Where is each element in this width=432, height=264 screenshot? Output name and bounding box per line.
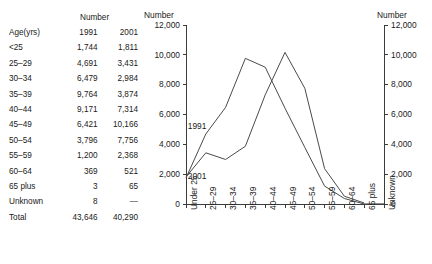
- table-row: Total43,64640,290: [8, 210, 140, 225]
- plot-area: [140, 0, 432, 264]
- row-age-label: 40–44: [8, 102, 59, 117]
- x-tick-label: 45–49: [289, 187, 297, 210]
- table-header-row: Age(yrs) 1991 2001: [8, 25, 140, 40]
- table-span-header-number: Number: [59, 10, 140, 25]
- series-line-2001: [186, 52, 364, 203]
- series-annotation-2001: 2001: [188, 172, 207, 180]
- left-y-tick-label: 12,000: [142, 21, 180, 29]
- x-tick-label: 40–44: [269, 187, 277, 210]
- row-value-2001: —: [100, 195, 140, 210]
- row-value-1991: 8: [59, 195, 99, 210]
- table-body: <251,7441,81125–294,6913,43130–346,4792,…: [8, 41, 140, 226]
- column-header-1991: 1991: [59, 25, 99, 40]
- row-value-2001: 7,314: [100, 102, 140, 117]
- table-span-header-row: Number: [8, 10, 140, 25]
- table-row: 45–496,42110,166: [8, 118, 140, 133]
- row-value-2001: 521: [100, 164, 140, 179]
- series-line-1991: [186, 58, 384, 204]
- row-value-2001: 2,368: [100, 149, 140, 164]
- row-age-label: Unknown: [8, 195, 59, 210]
- x-tick-label: 60–64: [348, 187, 356, 210]
- left-y-tick-label: 2,000: [142, 170, 180, 178]
- x-tick-label: 50–54: [308, 187, 316, 210]
- series-annotation-1991: 1991: [188, 122, 207, 130]
- row-value-2001: 2,984: [100, 72, 140, 87]
- row-age-label: 45–49: [8, 118, 59, 133]
- row-value-2001: 3,431: [100, 56, 140, 71]
- right-y-tick-label: 6,000: [391, 110, 429, 118]
- row-age-label: 65 plus: [8, 179, 59, 194]
- row-value-1991: 43,646: [59, 210, 99, 225]
- x-tick-label: 55–59: [328, 187, 336, 210]
- left-y-tick-label: 8,000: [142, 80, 180, 88]
- row-value-2001: 10,166: [100, 118, 140, 133]
- row-value-1991: 1,744: [59, 41, 99, 56]
- row-value-1991: 4,691: [59, 56, 99, 71]
- left-y-tick-label: 6,000: [142, 110, 180, 118]
- column-header-2001: 2001: [100, 25, 140, 40]
- x-tick-label: 30–34: [229, 187, 237, 210]
- row-age-label: 25–29: [8, 56, 59, 71]
- table-row: 25–294,6913,431: [8, 56, 140, 71]
- row-age-label: Total: [8, 210, 59, 225]
- left-y-tick-label: 0: [142, 200, 180, 208]
- table-row: 65 plus365: [8, 179, 140, 194]
- age-distribution-table: Number Age(yrs) 1991 2001 <251,7441,8112…: [8, 10, 140, 225]
- right-y-tick-label: 8,000: [391, 80, 429, 88]
- table-row: 60–64369521: [8, 164, 140, 179]
- x-tick-label: Unknown: [388, 175, 396, 210]
- row-age-label: 35–39: [8, 87, 59, 102]
- row-value-1991: 6,421: [59, 118, 99, 133]
- row-value-2001: 3,874: [100, 87, 140, 102]
- row-age-label: 60–64: [8, 164, 59, 179]
- x-tick-label: 65 plus: [368, 183, 376, 210]
- row-value-1991: 9,764: [59, 87, 99, 102]
- row-value-1991: 3: [59, 179, 99, 194]
- row-value-1991: 1,200: [59, 149, 99, 164]
- table-row: Unknown8—: [8, 195, 140, 210]
- x-tick-label: 25–29: [209, 187, 217, 210]
- row-value-1991: 6,479: [59, 72, 99, 87]
- table-span-header-blank: [8, 10, 59, 25]
- table-row: 35–399,7643,874: [8, 87, 140, 102]
- row-age-label: 30–34: [8, 72, 59, 87]
- table-row: 50–543,7967,756: [8, 133, 140, 148]
- table-row: 55–591,2002,368: [8, 149, 140, 164]
- left-y-tick-label: 4,000: [142, 140, 180, 148]
- table-row: 40–449,1717,314: [8, 102, 140, 117]
- row-value-2001: 65: [100, 179, 140, 194]
- table-row: 30–346,4792,984: [8, 72, 140, 87]
- row-age-label: 50–54: [8, 133, 59, 148]
- age-distribution-line-chart: Number Number 12,00010,0008,0006,0004,00…: [140, 0, 432, 264]
- table-row: <251,7441,811: [8, 41, 140, 56]
- row-value-1991: 3,796: [59, 133, 99, 148]
- right-y-tick-label: 10,000: [391, 51, 429, 59]
- age-distribution-table-panel: Number Age(yrs) 1991 2001 <251,7441,8112…: [8, 10, 140, 225]
- row-value-1991: 9,171: [59, 102, 99, 117]
- row-age-label: 55–59: [8, 149, 59, 164]
- right-y-tick-label: 12,000: [391, 21, 429, 29]
- row-value-1991: 369: [59, 164, 99, 179]
- column-header-age: Age(yrs): [8, 25, 59, 40]
- row-value-2001: 7,756: [100, 133, 140, 148]
- left-y-tick-label: 10,000: [142, 51, 180, 59]
- x-tick-label: 35–39: [249, 187, 257, 210]
- row-value-2001: 40,290: [100, 210, 140, 225]
- series-group: [186, 52, 384, 204]
- row-age-label: <25: [8, 41, 59, 56]
- right-y-tick-label: 4,000: [391, 140, 429, 148]
- row-value-2001: 1,811: [100, 41, 140, 56]
